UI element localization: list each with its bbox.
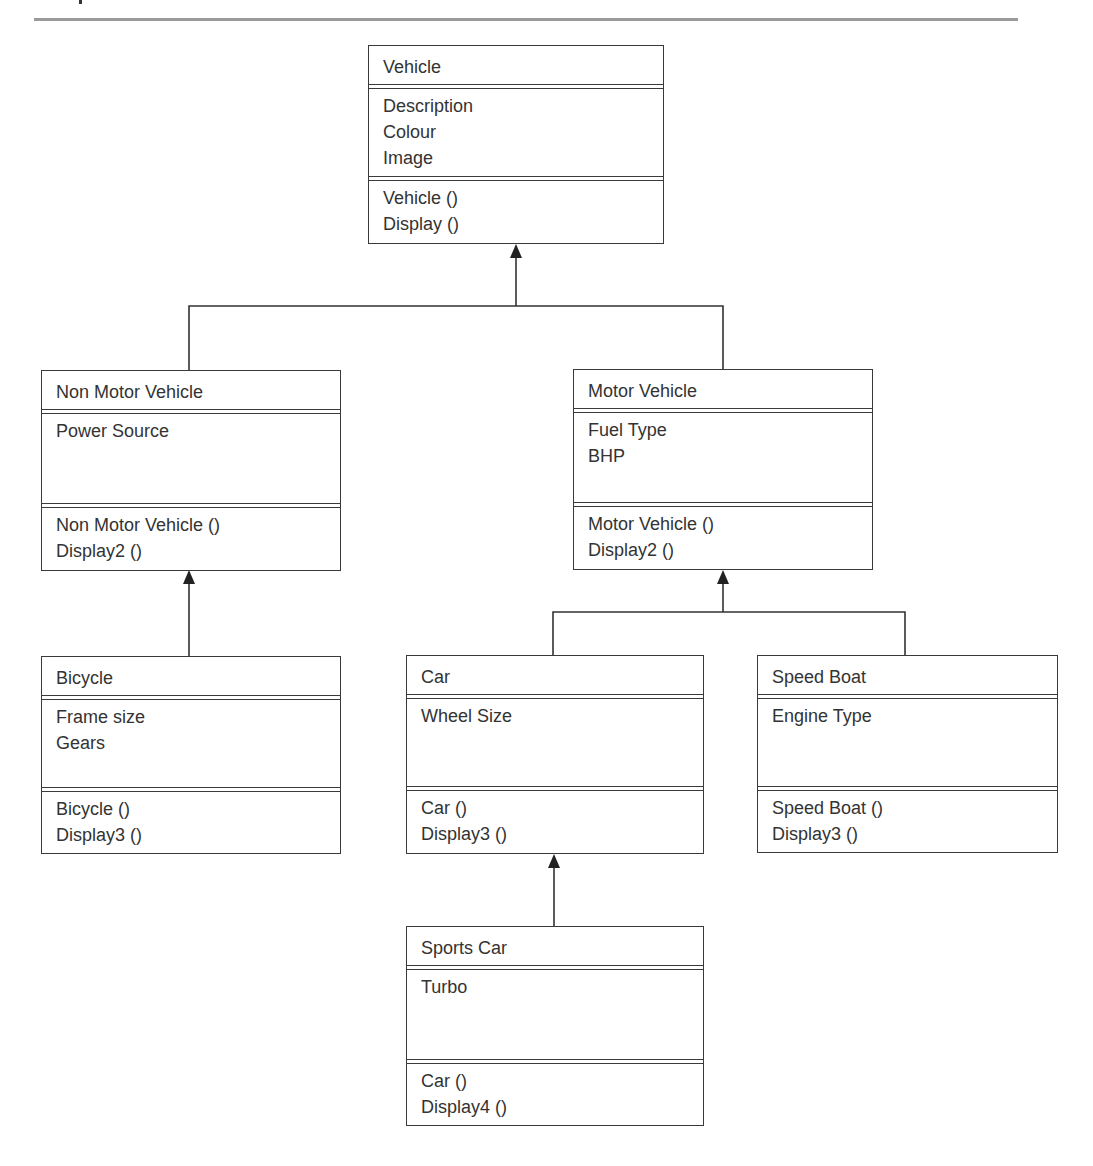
arrowhead-non-motor-vehicle <box>183 570 195 584</box>
operations-compartment: Non Motor Vehicle () Display2 () <box>42 508 340 564</box>
operations-compartment: Motor Vehicle () Display2 () <box>574 507 872 563</box>
attribute: BHP <box>588 443 858 469</box>
operation: Display3 () <box>772 821 1043 847</box>
class-sports-car[interactable]: Sports Car Turbo Car () Display4 () <box>406 926 704 1126</box>
operation: Vehicle () <box>383 185 649 211</box>
operation: Non Motor Vehicle () <box>56 512 326 538</box>
attribute: Wheel Size <box>421 703 689 729</box>
arrowhead-vehicle <box>510 244 522 258</box>
class-name: Car <box>407 656 703 695</box>
attribute: Turbo <box>421 974 689 1000</box>
attributes-compartment: Power Source <box>42 414 340 504</box>
arrowhead-motor-vehicle <box>717 570 729 584</box>
attribute: Colour <box>383 119 649 145</box>
operation: Display3 () <box>421 821 689 847</box>
link-motor-children <box>553 570 905 656</box>
operation: Display () <box>383 211 649 237</box>
operation: Motor Vehicle () <box>588 511 858 537</box>
operation: Speed Boat () <box>772 795 1043 821</box>
operation: Display2 () <box>588 537 858 563</box>
arrowhead-car <box>548 854 560 868</box>
attribute: Engine Type <box>772 703 1043 729</box>
attributes-compartment: Fuel Type BHP <box>574 413 872 503</box>
attribute: Frame size <box>56 704 326 730</box>
operations-compartment: Speed Boat () Display3 () <box>758 791 1057 847</box>
attribute: Fuel Type <box>588 417 858 443</box>
class-name: Vehicle <box>369 46 663 85</box>
operations-compartment: Car () Display3 () <box>407 791 703 847</box>
operation: Display4 () <box>421 1094 689 1120</box>
operation: Car () <box>421 795 689 821</box>
class-name: Non Motor Vehicle <box>42 371 340 410</box>
class-speed-boat[interactable]: Speed Boat Engine Type Speed Boat () Dis… <box>757 655 1058 853</box>
operations-compartment: Vehicle () Display () <box>369 181 663 237</box>
class-bicycle[interactable]: Bicycle Frame size Gears Bicycle () Disp… <box>41 656 341 854</box>
attributes-compartment: Wheel Size <box>407 699 703 787</box>
operations-compartment: Car () Display4 () <box>407 1064 703 1120</box>
operations-compartment: Bicycle () Display3 () <box>42 792 340 848</box>
class-non-motor-vehicle[interactable]: Non Motor Vehicle Power Source Non Motor… <box>41 370 341 571</box>
link-car-sports-car <box>548 854 560 927</box>
class-motor-vehicle[interactable]: Motor Vehicle Fuel Type BHP Motor Vehicl… <box>573 369 873 570</box>
attributes-compartment: Description Colour Image <box>369 89 663 177</box>
attributes-compartment: Frame size Gears <box>42 700 340 788</box>
class-vehicle[interactable]: Vehicle Description Colour Image Vehicle… <box>368 45 664 244</box>
link-non-motor-bicycle <box>183 570 195 656</box>
attribute: Description <box>383 93 649 119</box>
link-vehicle-children <box>189 244 723 370</box>
class-name: Speed Boat <box>758 656 1057 695</box>
class-name: Bicycle <box>42 657 340 696</box>
attribute: Image <box>383 145 649 171</box>
attribute: Power Source <box>56 418 326 444</box>
attribute: Gears <box>56 730 326 756</box>
operation: Display3 () <box>56 822 326 848</box>
class-name: Sports Car <box>407 927 703 966</box>
operation: Bicycle () <box>56 796 326 822</box>
attributes-compartment: Turbo <box>407 970 703 1060</box>
attributes-compartment: Engine Type <box>758 699 1057 787</box>
class-car[interactable]: Car Wheel Size Car () Display3 () <box>406 655 704 854</box>
link-branch-vehicle <box>189 306 723 370</box>
operation: Car () <box>421 1068 689 1094</box>
operation: Display2 () <box>56 538 326 564</box>
class-name: Motor Vehicle <box>574 370 872 409</box>
